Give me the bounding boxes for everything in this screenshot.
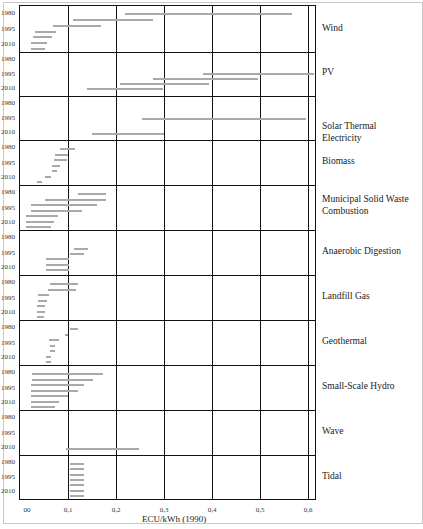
range-bar bbox=[153, 78, 258, 80]
range-bar bbox=[52, 165, 60, 167]
year-tick-label: 1980 bbox=[1, 9, 19, 17]
range-bar bbox=[78, 193, 106, 195]
year-tick-label: 1995 bbox=[1, 384, 19, 392]
year-tick-label: 1980 bbox=[1, 323, 19, 331]
range-bar bbox=[48, 289, 76, 291]
panel-separator bbox=[20, 455, 315, 456]
range-bar bbox=[45, 199, 106, 201]
range-bar bbox=[203, 73, 313, 75]
year-tick-label: 2010 bbox=[1, 263, 19, 271]
gridline-x bbox=[68, 6, 69, 499]
range-bar bbox=[46, 269, 69, 271]
category-label: Solar Thermal Electricity bbox=[322, 120, 412, 144]
year-tick-label: 2010 bbox=[1, 487, 19, 495]
range-bar bbox=[70, 474, 84, 476]
range-bar bbox=[37, 311, 45, 313]
year-tick-label: 1980 bbox=[1, 458, 19, 466]
range-bar bbox=[32, 379, 93, 381]
panel-separator bbox=[20, 96, 315, 97]
range-bar bbox=[70, 463, 84, 465]
range-bar bbox=[31, 390, 78, 392]
range-bar bbox=[32, 373, 103, 375]
x-tick-label: 0,2 bbox=[112, 506, 121, 514]
year-tick-label: 1980 bbox=[1, 278, 19, 286]
panel-separator bbox=[20, 230, 315, 231]
range-bar bbox=[37, 305, 45, 307]
range-bar bbox=[74, 248, 88, 250]
panel-separator bbox=[20, 52, 315, 53]
range-bar bbox=[31, 210, 82, 212]
range-bar bbox=[31, 384, 84, 386]
year-tick-label: 1980 bbox=[1, 368, 19, 376]
year-tick-label: 1995 bbox=[1, 294, 19, 302]
year-tick-label: 1995 bbox=[1, 114, 19, 122]
year-tick-label: 1980 bbox=[1, 188, 19, 196]
range-bar bbox=[54, 159, 67, 161]
range-bar bbox=[87, 88, 163, 90]
x-tick-label: 0,1 bbox=[64, 506, 73, 514]
year-tick-label: 1995 bbox=[1, 159, 19, 167]
range-bar bbox=[70, 468, 84, 470]
year-tick-label: 1995 bbox=[1, 25, 19, 33]
panel-separator bbox=[20, 185, 315, 186]
year-tick-label: 1980 bbox=[1, 143, 19, 151]
range-bar bbox=[46, 264, 69, 266]
year-tick-label: 1980 bbox=[1, 233, 19, 241]
range-bar bbox=[26, 221, 54, 223]
range-bar bbox=[35, 31, 56, 33]
year-tick-label: 2010 bbox=[1, 398, 19, 406]
x-tick-label: 00 bbox=[24, 506, 31, 514]
range-bar bbox=[70, 328, 78, 330]
range-bar bbox=[120, 83, 209, 85]
panel-separator bbox=[20, 320, 315, 321]
category-label: Wave bbox=[322, 425, 412, 437]
range-bar bbox=[33, 36, 52, 38]
category-label: Combustion bbox=[322, 205, 412, 217]
range-bar bbox=[31, 406, 55, 408]
range-bar bbox=[55, 154, 68, 156]
range-bar bbox=[92, 133, 164, 135]
range-bar bbox=[37, 181, 42, 183]
year-tick-label: 2010 bbox=[1, 128, 19, 136]
gridline-x bbox=[308, 6, 309, 499]
range-bar bbox=[31, 42, 47, 44]
category-label: Geothermal bbox=[322, 335, 412, 347]
year-tick-label: 1980 bbox=[1, 55, 19, 63]
x-tick-label: 0,3 bbox=[160, 506, 169, 514]
x-tick-label: 0,4 bbox=[208, 506, 217, 514]
gridline-x bbox=[116, 6, 117, 499]
year-tick-label: 2010 bbox=[1, 353, 19, 361]
range-bar bbox=[46, 361, 51, 363]
category-label: Landfill Gas bbox=[322, 290, 412, 302]
range-bar bbox=[70, 253, 84, 255]
panel-separator bbox=[20, 275, 315, 276]
year-tick-label: 2010 bbox=[1, 84, 19, 92]
range-bar bbox=[70, 495, 84, 497]
category-label: Wind bbox=[322, 22, 412, 34]
year-tick-label: 1995 bbox=[1, 204, 19, 212]
range-bar bbox=[46, 356, 51, 358]
category-label: Small-Scale Hydro bbox=[322, 380, 412, 392]
range-bar bbox=[45, 176, 51, 178]
range-bar bbox=[31, 48, 45, 50]
range-bar bbox=[70, 484, 84, 486]
year-tick-label: 2010 bbox=[1, 40, 19, 48]
range-bar bbox=[142, 118, 306, 120]
panel-separator bbox=[20, 410, 315, 411]
range-bar bbox=[46, 258, 69, 260]
x-tick-label: 0,5 bbox=[256, 506, 265, 514]
year-tick-label: 2010 bbox=[1, 443, 19, 451]
range-bar bbox=[66, 448, 139, 450]
panel-separator bbox=[20, 365, 315, 366]
year-tick-label: 2010 bbox=[1, 308, 19, 316]
range-bar bbox=[52, 170, 57, 172]
range-bar bbox=[125, 13, 292, 15]
year-tick-label: 1980 bbox=[1, 99, 19, 107]
year-tick-label: 2010 bbox=[1, 218, 19, 226]
x-axis-title: ECU/kWh (1990) bbox=[142, 514, 206, 524]
year-tick-label: 1995 bbox=[1, 249, 19, 257]
year-tick-label: 2010 bbox=[1, 173, 19, 181]
range-bar bbox=[70, 479, 84, 481]
year-tick-label: 1995 bbox=[1, 70, 19, 78]
year-tick-label: 1995 bbox=[1, 339, 19, 347]
